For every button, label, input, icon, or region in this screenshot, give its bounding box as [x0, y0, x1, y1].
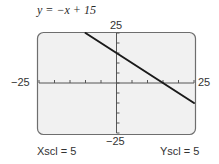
y-min-label: −25 — [106, 135, 125, 147]
x-max-label: 25 — [198, 76, 210, 88]
yscl-label: Yscl = 5 — [160, 145, 199, 157]
x-min-label: −25 — [11, 76, 30, 88]
xscl-label: Xscl = 5 — [37, 145, 76, 157]
y-max-label: 25 — [110, 19, 122, 31]
